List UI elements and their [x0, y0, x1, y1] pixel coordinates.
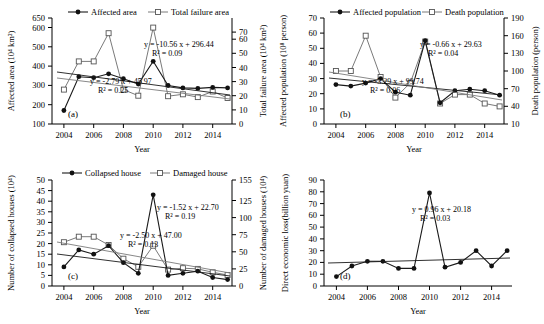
tick: 30 — [37, 217, 46, 227]
tick: 2004 — [327, 130, 345, 140]
tick: 50 — [37, 175, 46, 185]
tick: 2006 — [359, 292, 376, 302]
tick: 600 — [32, 23, 45, 33]
tick: 2010 — [417, 130, 434, 140]
chart-a-right-ticks: 0 10 20 30 40 50 60 70 — [232, 27, 248, 129]
chart-a-svg: 100 200 300 400 500 600 650 0 10 20 30 4… — [0, 0, 272, 160]
equation-r2: R² = 0.09 — [152, 49, 182, 58]
tick: 2006 — [357, 130, 374, 140]
chart-a-left-axis-title: Affected area (10⁴ km²) — [6, 31, 16, 112]
tick: 10 — [511, 119, 520, 129]
tick: 45 — [37, 186, 46, 196]
tick: 20 — [239, 91, 248, 101]
tick: 20 — [309, 257, 318, 267]
tick: 25 — [37, 228, 46, 238]
legend-label: Total failure area — [171, 7, 229, 17]
chart-a-left-ticks: 100 200 300 400 500 600 650 — [32, 13, 52, 129]
tick: 50 — [239, 247, 248, 257]
chart-a-annotations: y = -10.56 x + 296.44 R² = 0.09 y = -2.7… — [90, 40, 214, 95]
tick: 2008 — [115, 130, 132, 140]
tick: 100 — [239, 213, 252, 223]
chart-c-svg: 0 5 10 15 20 25 30 35 40 45 50 0 25 50 7… — [0, 160, 272, 324]
tick: 25 — [239, 264, 248, 274]
tick: 60 — [309, 210, 318, 220]
chart-panel-c: 0 5 10 15 20 25 30 35 40 45 50 0 25 50 7… — [0, 160, 272, 324]
chart-d-annotations: y = 0.96 x + 20.18 R² = 0.03 — [412, 205, 471, 223]
chart-a-x-axis-title: Year — [134, 144, 150, 154]
tick: 130 — [511, 48, 524, 58]
chart-d-panel-label: (d) — [340, 271, 351, 281]
tick: 300 — [32, 80, 45, 90]
tick: 40 — [239, 63, 248, 73]
chart-panel-b: 0 10 20 30 40 50 60 70 10 40 70 100 130 … — [272, 0, 544, 160]
tick: 40 — [309, 58, 318, 68]
tick: 2012 — [446, 130, 463, 140]
chart-c-left-axis-title: Number of collapsed houses (10⁴) — [6, 175, 16, 291]
legend-label: Affected population — [353, 7, 422, 17]
tick: 70 — [309, 199, 318, 209]
chart-a-panel-label: (a) — [68, 109, 78, 119]
legend-label: Death population — [445, 7, 505, 17]
tick: 90 — [309, 175, 318, 185]
tick: 50 — [239, 48, 248, 58]
tick: 30 — [239, 77, 248, 87]
figure-root: 100 200 300 400 500 600 650 0 10 20 30 4… — [0, 0, 544, 324]
chart-c-x-ticks: 2004 2006 2008 2010 2012 2014 — [55, 286, 222, 302]
chart-panel-a: 100 200 300 400 500 600 650 0 10 20 30 4… — [0, 0, 272, 160]
chart-c-annotations: y = -1.52 x + 22.70 R² = 0.19 y = -2.50 … — [120, 203, 219, 249]
chart-c-x-axis-title: Year — [134, 306, 150, 316]
tick: 190 — [511, 13, 524, 23]
chart-c-right-ticks: 0 25 50 75 100 125 155 — [232, 175, 252, 291]
tick: 20 — [37, 239, 46, 249]
equation-text: y = 0.96 x + 20.18 — [412, 205, 471, 214]
tick: 160 — [511, 31, 524, 41]
tick: 125 — [239, 196, 252, 206]
tick: 0 — [41, 281, 45, 291]
tick: 10 — [309, 104, 318, 114]
equation-r2: R² = 0.03 — [420, 214, 450, 223]
tick: 0 — [239, 281, 243, 291]
tick: 0 — [313, 281, 317, 291]
tick: 2014 — [204, 292, 222, 302]
chart-b-legend: Affected population Death population — [330, 7, 505, 17]
tick: 2014 — [476, 130, 494, 140]
tick: 2012 — [174, 130, 191, 140]
tick: 30 — [309, 246, 318, 256]
tick: 2010 — [421, 292, 438, 302]
chart-a-right-axis-title: Total failure area (10⁴ km²) — [258, 24, 268, 117]
tick: 0 — [313, 119, 317, 129]
chart-c-left-ticks: 0 5 10 15 20 25 30 35 40 45 50 — [37, 175, 53, 291]
tick: 10 — [309, 269, 318, 279]
tick: 2006 — [85, 292, 102, 302]
chart-b-svg: 0 10 20 30 40 50 60 70 10 40 70 100 130 … — [272, 0, 544, 160]
tick: 40 — [511, 101, 520, 111]
tick: 50 — [309, 222, 318, 232]
chart-b-right-ticks: 10 40 70 100 130 160 190 — [504, 13, 524, 129]
equation-r2: R² = 0.04 — [428, 49, 458, 58]
chart-d-svg: 0 10 20 30 40 50 60 70 80 90 2004 2006 2… — [272, 160, 544, 324]
tick: 70 — [309, 13, 318, 23]
chart-d-trendlines — [328, 258, 510, 263]
tick: 2010 — [145, 130, 162, 140]
chart-b-x-axis-title: Year — [406, 144, 422, 154]
tick: 50 — [309, 43, 318, 53]
chart-d-x-axis-title: Year — [410, 306, 426, 316]
tick: 2004 — [328, 292, 346, 302]
chart-b-x-ticks: 2004 2006 2008 2010 2012 2014 — [327, 124, 494, 140]
chart-d-left-ticks: 0 10 20 30 40 50 60 70 80 90 — [309, 175, 325, 291]
tick: 0 — [239, 119, 243, 129]
equation-text: y = -0.66 x + 29.63 — [420, 40, 482, 49]
tick: 10 — [239, 105, 248, 115]
chart-c-panel-label: (c) — [68, 271, 78, 281]
chart-d-left-axis-title: Direct economic loss(billion yuan) — [280, 174, 290, 292]
tick: 20 — [309, 89, 318, 99]
tick: 70 — [511, 84, 520, 94]
chart-d-axes — [324, 180, 512, 286]
tick: 10 — [37, 260, 46, 270]
tick: 2008 — [387, 130, 404, 140]
tick: 15 — [37, 249, 46, 259]
chart-a-x-ticks: 2004 2006 2008 2010 2012 2014 — [55, 124, 222, 140]
tick: 2012 — [452, 292, 469, 302]
tick: 35 — [37, 207, 46, 217]
tick: 155 — [239, 175, 252, 185]
